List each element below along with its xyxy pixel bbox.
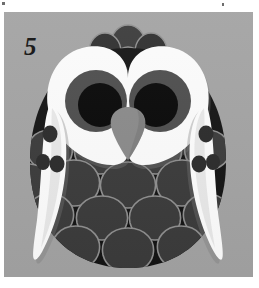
registration-tick-icon xyxy=(222,3,224,6)
illustration-panel: 5 xyxy=(4,12,253,277)
plate-number: 5 xyxy=(24,34,37,59)
illustration-page: 5 xyxy=(0,0,259,288)
owl-illustration xyxy=(4,12,253,277)
registration-tick-icon xyxy=(2,2,5,5)
